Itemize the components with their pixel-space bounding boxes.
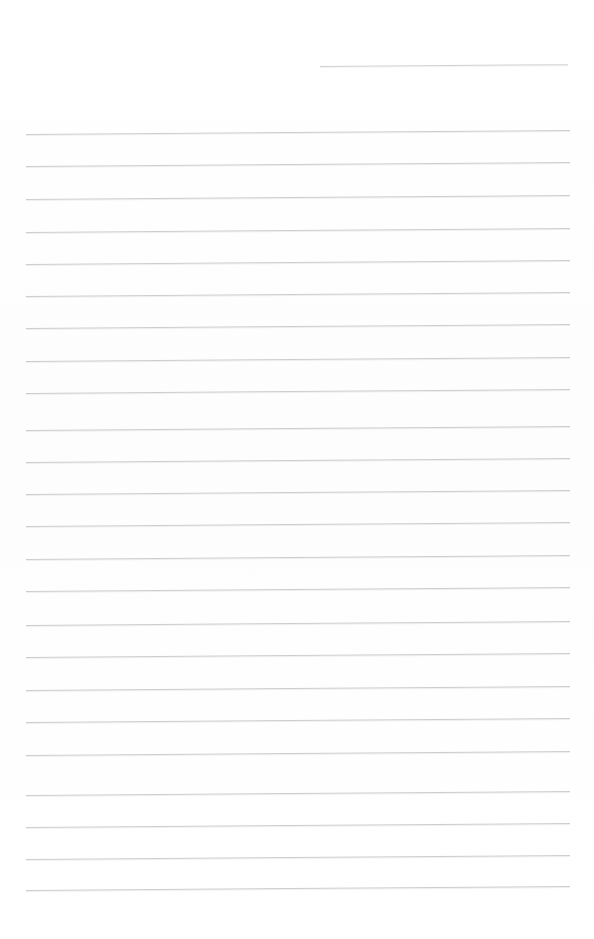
notepad-page xyxy=(0,0,594,939)
header-rule xyxy=(320,64,568,67)
writing-area[interactable] xyxy=(26,120,570,910)
